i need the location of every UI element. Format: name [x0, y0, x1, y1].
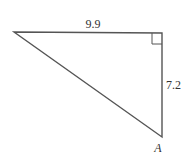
triangle-diagram: 9.9 7.2 A — [0, 0, 191, 162]
right-side-length-label: 7.2 — [166, 78, 181, 92]
vertex-a-label: A — [153, 141, 162, 155]
right-triangle — [14, 32, 162, 137]
right-angle-marker — [152, 33, 162, 44]
top-side-length-label: 9.9 — [86, 17, 101, 31]
